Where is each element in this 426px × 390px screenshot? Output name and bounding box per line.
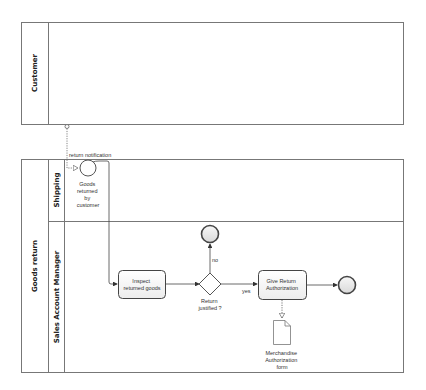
lane-label-sales-account-manager: Sales Account Manager bbox=[53, 250, 61, 343]
flow-label-no: no bbox=[212, 257, 218, 263]
pool-customer[interactable]: Customer bbox=[22, 23, 404, 125]
lane-label-shipping: Shipping bbox=[53, 173, 61, 208]
pool-label-goods-return: Goods return bbox=[31, 240, 39, 292]
task-authorize-label: Give Return Authorization bbox=[266, 278, 298, 291]
task-give-return-authorization[interactable]: Give Return Authorization bbox=[259, 271, 307, 300]
bpmn-canvas: Customer Goods return Shipping Sales Acc… bbox=[0, 0, 426, 390]
end-event-authorized[interactable] bbox=[339, 277, 356, 294]
flow-label-yes: yes bbox=[242, 288, 251, 294]
gateway-label: Return justified ? bbox=[197, 298, 221, 311]
message-flow-label: return notification bbox=[69, 152, 111, 158]
pool-label-customer: Customer bbox=[31, 53, 39, 91]
task-inspect-returned-goods[interactable]: Inspect returned goods bbox=[119, 271, 166, 299]
end-event-rejected[interactable] bbox=[202, 226, 219, 243]
